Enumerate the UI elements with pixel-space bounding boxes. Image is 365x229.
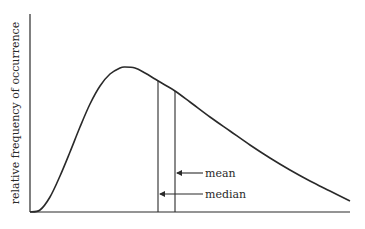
distribution-curve bbox=[30, 67, 350, 212]
median-label: median bbox=[205, 188, 246, 201]
y-axis-label: relative frequency of occurrence bbox=[9, 22, 22, 204]
skewed-distribution-diagram: relative frequency of occurrence mean me… bbox=[0, 0, 365, 229]
mean-label: mean bbox=[205, 167, 236, 180]
